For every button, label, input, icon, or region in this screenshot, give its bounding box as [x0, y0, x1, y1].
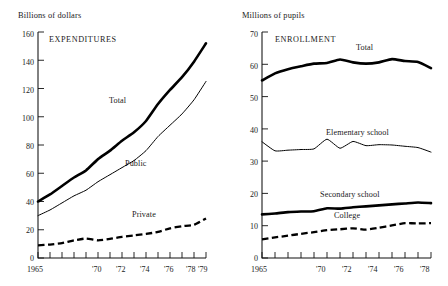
- series-curve-total: [38, 43, 206, 201]
- x-tickmarks: [262, 252, 431, 258]
- x-tickmarks: [38, 252, 206, 258]
- enrollment-plot: [224, 0, 448, 286]
- axis-lines: [38, 32, 206, 258]
- enrollment-panel: Millions of pupils ENROLLMENT Total Elem…: [224, 0, 448, 286]
- series-curve-total: [262, 59, 431, 80]
- series-curve-secondary: [262, 202, 431, 214]
- dual-line-chart-figure: Billions of dollars EXPENDITURES Total P…: [0, 0, 448, 286]
- series-curve-college: [262, 223, 431, 239]
- series-curve-elementary: [262, 139, 431, 152]
- series-curve-private: [38, 218, 206, 245]
- expenditures-plot: [0, 0, 224, 286]
- series-curve-public: [38, 81, 206, 215]
- y-tickmarks: [38, 32, 44, 258]
- expenditures-panel: Billions of dollars EXPENDITURES Total P…: [0, 0, 224, 286]
